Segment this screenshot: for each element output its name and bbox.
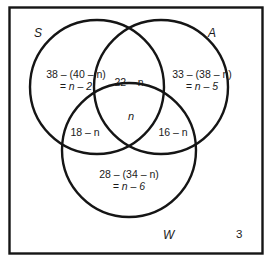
region-label-w-only: 28 – (34 – n) = n – 6 (79, 168, 179, 193)
region-a-only-line1: 33 – (38 – n) (172, 68, 232, 80)
region-a-only-line2: = n – 5 (152, 80, 252, 92)
region-label-s-and-w: 18 – n (60, 126, 110, 138)
region-label-all-three: n (116, 110, 146, 123)
set-label-s: S (34, 26, 42, 40)
region-label-a-and-w: 16 – n (148, 126, 198, 138)
region-w-only-line2: = n – 6 (79, 180, 179, 192)
region-w-only-line1: 28 – (34 – n) (99, 168, 159, 180)
venn-diagram-figure: S A W 38 – (40 – n) = n – 2 33 – (38 – n… (0, 0, 272, 262)
region-label-a-only: 33 – (38 – n) = n – 5 (152, 68, 252, 93)
universe-count-label: 3 (236, 228, 242, 242)
set-label-w: W (163, 228, 175, 242)
region-s-only-line1: 38 – (40 – n) (46, 68, 106, 80)
set-label-a: A (208, 26, 216, 40)
region-label-s-and-a: 22 – n (104, 76, 154, 88)
